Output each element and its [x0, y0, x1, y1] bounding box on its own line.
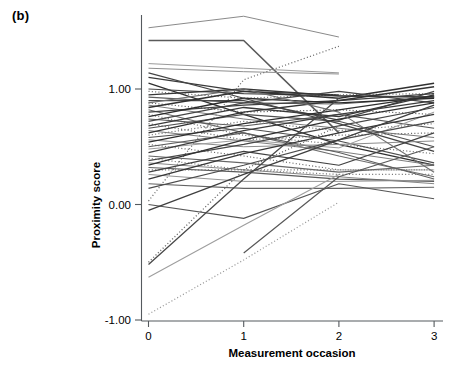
series-line-s45 — [149, 184, 435, 189]
y-tick-label: -1.00 — [105, 314, 131, 326]
y-tick-label: 1.00 — [109, 83, 131, 95]
y-axis-title: Proximity score — [90, 162, 102, 248]
series-line-s01 — [149, 16, 339, 37]
x-tick-label: 1 — [240, 330, 246, 342]
series-line-s52 — [244, 147, 434, 253]
x-tick-label: 3 — [431, 330, 437, 342]
y-tick-group: -1.000.001.00 — [105, 83, 142, 326]
figure-panel-b: (b) -1.000.001.00 0123 Proximity score M… — [0, 0, 450, 365]
series-line-s47 — [149, 184, 435, 219]
series-line-s48 — [149, 105, 435, 210]
series-line-s53 — [149, 202, 339, 314]
x-axis-title: Measurement occasion — [228, 347, 355, 359]
x-tick-group: 0123 — [145, 321, 437, 342]
series-line-s51 — [149, 174, 339, 277]
series-group — [149, 16, 435, 314]
y-tick-label: 0.00 — [109, 199, 131, 211]
x-tick-label: 0 — [145, 330, 151, 342]
spaghetti-line-chart: -1.000.001.00 0123 Proximity score Measu… — [0, 0, 450, 365]
x-tick-label: 2 — [336, 330, 342, 342]
series-line-s22 — [149, 124, 435, 140]
